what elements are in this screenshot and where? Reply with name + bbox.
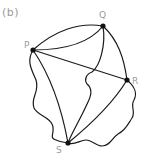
edge-r-s-wavy [68, 80, 136, 146]
node-q [100, 23, 105, 28]
node-label-r: R [132, 76, 138, 86]
node-label-q: Q [99, 10, 106, 20]
graph-diagram: P Q R S [0, 0, 146, 163]
node-label-p: P [24, 40, 30, 50]
node-p [30, 47, 35, 52]
node-r [124, 77, 129, 82]
edge-q-r [103, 26, 127, 80]
node-s [65, 140, 70, 145]
node-label-s: S [56, 145, 62, 155]
edge-p-s-curve [33, 50, 68, 143]
edge-q-s [68, 26, 104, 143]
edge-p-s-wavy [30, 50, 68, 143]
edge-p-q-lower [33, 26, 103, 50]
